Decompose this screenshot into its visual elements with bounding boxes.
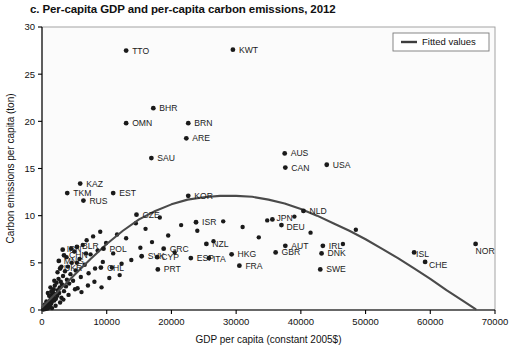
data-point-label-nor: NOR bbox=[476, 246, 495, 256]
data-point-usa[interactable] bbox=[324, 162, 329, 167]
data-point-chn[interactable] bbox=[62, 253, 67, 258]
data-point-dnk[interactable] bbox=[319, 251, 324, 256]
data-point-prt[interactable] bbox=[155, 267, 160, 272]
data-point-chl[interactable] bbox=[98, 265, 103, 270]
data-point-hkg[interactable] bbox=[229, 252, 234, 257]
data-point[interactable] bbox=[73, 287, 77, 291]
x-axis-title: GDP per capita (constant 2005$) bbox=[195, 334, 341, 345]
data-point[interactable] bbox=[150, 240, 154, 244]
data-point-irl[interactable] bbox=[320, 243, 325, 248]
data-point-swe[interactable] bbox=[318, 267, 323, 272]
data-point-cze[interactable] bbox=[134, 212, 139, 217]
data-point[interactable] bbox=[240, 225, 244, 229]
data-point-esp[interactable] bbox=[188, 256, 193, 261]
data-point[interactable] bbox=[138, 246, 142, 250]
data-point[interactable] bbox=[86, 271, 90, 275]
data-point-gbr[interactable] bbox=[273, 250, 278, 255]
data-point-label-cze: CZE bbox=[142, 210, 159, 220]
x-axis-tick-label: 60000 bbox=[417, 316, 443, 327]
data-point-label-nld: NLD bbox=[309, 206, 326, 216]
data-point[interactable] bbox=[195, 229, 199, 233]
data-point-nzl[interactable] bbox=[204, 242, 209, 247]
data-point-label-nzl: NZL bbox=[212, 239, 228, 249]
data-point-isr[interactable] bbox=[194, 220, 199, 225]
data-point-ukr[interactable] bbox=[58, 266, 63, 271]
data-point[interactable] bbox=[79, 290, 83, 294]
data-point[interactable] bbox=[62, 289, 66, 293]
data-point-fra[interactable] bbox=[237, 263, 242, 268]
data-point-label-gbr: GBR bbox=[282, 247, 301, 257]
data-point-nld[interactable] bbox=[301, 209, 306, 214]
data-point[interactable] bbox=[143, 227, 147, 231]
data-point[interactable] bbox=[308, 230, 312, 234]
data-point[interactable] bbox=[52, 279, 56, 283]
data-point-brn[interactable] bbox=[186, 121, 191, 126]
data-point[interactable] bbox=[129, 258, 133, 262]
data-point[interactable] bbox=[66, 293, 70, 297]
data-point-label-rus: RUS bbox=[89, 196, 107, 206]
y-axis-tick-label: 30 bbox=[24, 21, 35, 32]
data-point-are[interactable] bbox=[184, 136, 189, 141]
data-point-label-che: CHE bbox=[429, 260, 447, 270]
data-point[interactable] bbox=[166, 233, 170, 237]
data-point-rus[interactable] bbox=[81, 198, 86, 203]
y-axis-title: Carbon emissions per capita (ton) bbox=[5, 93, 16, 243]
data-point-deu[interactable] bbox=[279, 223, 284, 228]
data-point-omn[interactable] bbox=[124, 121, 129, 126]
data-point-kor[interactable] bbox=[186, 193, 191, 198]
data-point-sau[interactable] bbox=[149, 156, 154, 161]
data-point-est[interactable] bbox=[111, 191, 116, 196]
data-point[interactable] bbox=[101, 260, 105, 264]
data-point[interactable] bbox=[49, 289, 53, 293]
x-axis-tick-label: 30000 bbox=[223, 316, 249, 327]
data-point-aus[interactable] bbox=[282, 151, 287, 156]
data-point-label-are: ARE bbox=[192, 133, 210, 143]
data-point[interactable] bbox=[221, 219, 225, 223]
data-point[interactable] bbox=[91, 234, 95, 238]
data-point-label-swe: SWE bbox=[326, 264, 346, 274]
data-point[interactable] bbox=[124, 236, 128, 240]
y-axis-tick-label: 25 bbox=[24, 69, 35, 80]
data-point-kaz[interactable] bbox=[78, 181, 83, 186]
data-point-label-brn: BRN bbox=[194, 118, 212, 128]
data-point-che[interactable] bbox=[423, 259, 428, 264]
data-point-tto[interactable] bbox=[124, 48, 129, 53]
data-point-bhr[interactable] bbox=[151, 106, 156, 111]
data-point[interactable] bbox=[55, 270, 59, 274]
data-point[interactable] bbox=[354, 228, 358, 232]
data-point[interactable] bbox=[86, 283, 90, 287]
data-point-svk[interactable] bbox=[139, 254, 144, 259]
data-point[interactable] bbox=[292, 214, 296, 218]
data-point-tkm[interactable] bbox=[65, 191, 70, 196]
data-point-mng[interactable] bbox=[56, 259, 61, 264]
data-point-can[interactable] bbox=[283, 165, 288, 170]
data-point[interactable] bbox=[93, 266, 97, 270]
data-point-label-esp: ESP bbox=[197, 253, 214, 263]
data-point[interactable] bbox=[48, 285, 52, 289]
data-point-cyp[interactable] bbox=[155, 255, 160, 260]
data-point[interactable] bbox=[53, 304, 57, 308]
data-point[interactable] bbox=[117, 273, 121, 277]
data-point-label-fra: FRA bbox=[245, 261, 262, 271]
scatter-chart-svg: 0510152025300100002000030000400005000060… bbox=[0, 0, 514, 355]
data-point-label-deu: DEU bbox=[286, 222, 304, 232]
data-point[interactable] bbox=[265, 218, 269, 222]
data-point[interactable] bbox=[98, 230, 102, 234]
data-point-ita[interactable] bbox=[207, 256, 212, 261]
data-point[interactable] bbox=[179, 223, 183, 227]
data-point[interactable] bbox=[92, 280, 96, 284]
data-point-pol[interactable] bbox=[101, 246, 106, 251]
data-point-label-ukr: UKR bbox=[64, 263, 82, 273]
data-point-label-dnk: DNK bbox=[328, 248, 346, 258]
data-point-irn[interactable] bbox=[60, 247, 65, 252]
data-point[interactable] bbox=[88, 252, 92, 256]
data-point[interactable] bbox=[107, 276, 111, 280]
data-point[interactable] bbox=[257, 235, 261, 239]
data-point[interactable] bbox=[61, 297, 65, 301]
data-point[interactable] bbox=[99, 285, 103, 289]
data-point[interactable] bbox=[61, 274, 65, 278]
data-point[interactable] bbox=[79, 275, 83, 279]
data-point-label-sau: SAU bbox=[157, 153, 175, 163]
data-point-jpn[interactable] bbox=[270, 217, 275, 222]
data-point-kwt[interactable] bbox=[231, 47, 236, 52]
